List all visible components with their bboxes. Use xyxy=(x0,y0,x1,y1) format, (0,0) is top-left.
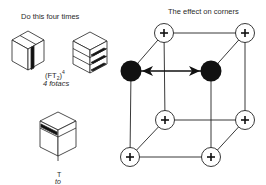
corner-back-bottom-left xyxy=(156,111,175,130)
corner-front-top-left xyxy=(121,61,142,82)
cube-top-turn-icon xyxy=(40,112,76,161)
corner-back-top-right xyxy=(236,24,255,43)
corner-front-top-right xyxy=(201,61,222,82)
cube-layer-turns-icon xyxy=(73,32,107,73)
corner-cube-edges xyxy=(130,33,245,157)
diagram-canvas xyxy=(0,0,266,185)
corner-front-bottom-right xyxy=(202,148,221,167)
corner-back-bottom-right xyxy=(236,111,255,130)
swap-arrow-icon xyxy=(140,66,202,76)
cube-front-turn-icon xyxy=(12,31,44,70)
corner-back-top-left xyxy=(155,24,174,43)
corner-front-bottom-left xyxy=(121,148,140,167)
